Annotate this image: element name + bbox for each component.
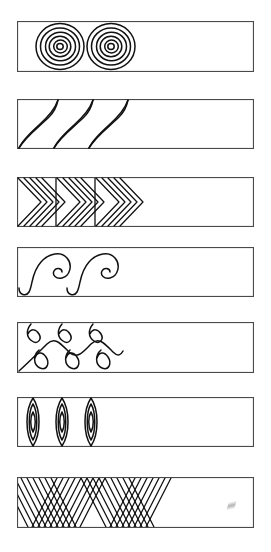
band-interlocking-loops [17, 322, 254, 373]
band-4-canvas [17, 247, 254, 297]
band-5-frame [18, 323, 254, 373]
band-7-canvas [17, 477, 254, 528]
ornament-plate [0, 0, 271, 552]
band-nested-chevrons [17, 177, 254, 227]
band-concentric-spirals [17, 21, 254, 72]
band-3-canvas [17, 177, 254, 227]
band-2-canvas [17, 99, 254, 149]
band-nested-vesicas [17, 397, 254, 447]
band-nested-zigzags [17, 477, 254, 528]
band-6-frame [18, 398, 254, 447]
band-5-canvas [17, 322, 254, 373]
band-spiral-scrolls [17, 247, 254, 297]
band-s-curve-leaves [17, 99, 254, 149]
band-1-canvas [17, 21, 254, 72]
band-6-canvas [17, 397, 254, 447]
band-2-frame [18, 100, 254, 149]
